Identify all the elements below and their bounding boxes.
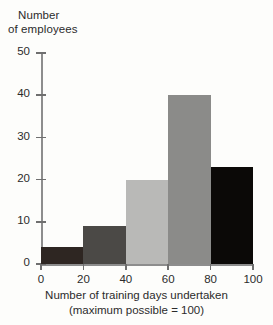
y-tick: 10: [36, 221, 46, 223]
y-tick-label: 50: [17, 45, 30, 57]
x-axis-title: Number of training days undertaken: [0, 288, 273, 303]
y-axis-title: Number of employees: [18, 8, 78, 36]
x-axis-line: [41, 264, 253, 266]
y-axis-title-line1: Number: [18, 9, 60, 21]
x-tick: 40: [125, 264, 127, 270]
y-tick-label: 40: [17, 87, 30, 99]
histogram-bar: [168, 95, 210, 264]
histogram-bar: [126, 180, 168, 264]
x-tick-label: 100: [243, 273, 262, 285]
histogram-figure: Number of employees 01020304050 02040608…: [0, 0, 273, 325]
x-tick: 80: [210, 264, 212, 270]
y-tick-label: 10: [17, 214, 30, 226]
x-tick: 20: [83, 264, 85, 270]
x-tick-label: 80: [204, 273, 217, 285]
x-tick-label: 0: [38, 273, 44, 285]
x-axis-subtitle: (maximum possible = 100): [0, 303, 273, 318]
histogram-bar: [41, 247, 83, 264]
y-axis-line: [41, 53, 43, 264]
y-axis-title-line2: of employees: [8, 22, 78, 36]
x-tick: 0: [40, 264, 42, 270]
x-tick: 100: [252, 264, 254, 270]
x-tick-label: 60: [162, 273, 175, 285]
y-tick-label: 20: [17, 172, 30, 184]
y-tick: 20: [36, 179, 46, 181]
y-tick-label: 30: [17, 130, 30, 142]
y-tick: 50: [36, 52, 46, 54]
plot-area: 01020304050 020406080100: [41, 53, 253, 264]
x-tick-label: 40: [119, 273, 132, 285]
x-tick: 60: [167, 264, 169, 270]
y-tick-label: 0: [24, 256, 30, 268]
y-tick: 30: [36, 137, 46, 139]
y-tick: 40: [36, 94, 46, 96]
histogram-bar: [83, 226, 125, 264]
x-tick-label: 20: [77, 273, 90, 285]
histogram-bar: [211, 167, 253, 264]
